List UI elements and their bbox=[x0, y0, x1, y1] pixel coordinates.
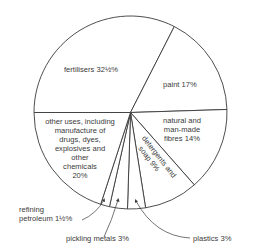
label-other-line-6: chemicals bbox=[36, 162, 124, 171]
label-other-line-5: other bbox=[36, 153, 124, 162]
label-fibres-line-2: man-made bbox=[163, 125, 201, 134]
label-other-line-4: explosives and bbox=[36, 144, 124, 153]
label-refining: refining petroleum 1½% bbox=[19, 205, 72, 223]
label-refining-line-2: petroleum 1½% bbox=[19, 214, 72, 223]
label-fibres: natural and man-made fibres 14% bbox=[163, 116, 201, 143]
label-other-line-1: other uses, including bbox=[36, 117, 124, 126]
label-other-uses: other uses, including manufacture of dru… bbox=[36, 117, 124, 180]
label-refining-line-1: refining bbox=[19, 205, 72, 214]
label-paint: paint 17% bbox=[163, 80, 197, 89]
label-other-line-3: drugs, dyes, bbox=[36, 135, 124, 144]
label-plastics: plastics 3% bbox=[193, 234, 231, 243]
pie-slices bbox=[34, 16, 227, 209]
label-other-line-7: 20% bbox=[36, 171, 124, 180]
label-fibres-line-1: natural and bbox=[163, 116, 201, 125]
label-pickling: pickling metals 3% bbox=[66, 234, 129, 243]
label-fertilisers: fertilisers 32½% bbox=[64, 65, 118, 74]
label-other-line-2: manufacture of bbox=[36, 126, 124, 135]
label-fibres-line-3: fibres 14% bbox=[163, 134, 201, 143]
